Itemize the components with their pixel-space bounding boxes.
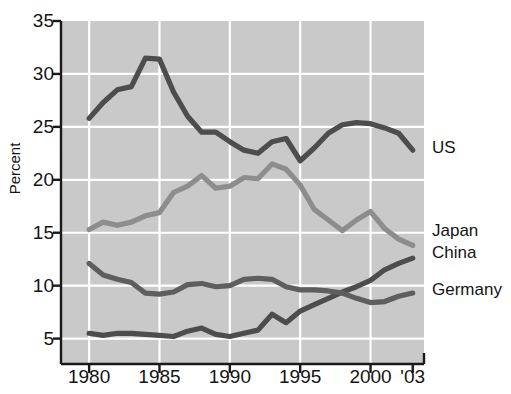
series-label-japan: Japan bbox=[432, 222, 478, 240]
x-tick-label: '03 bbox=[400, 366, 425, 388]
chart-figure: Percent 5101520253035 198019851990199520… bbox=[0, 0, 511, 394]
x-tick-label: 1995 bbox=[279, 366, 321, 388]
x-tick-label: 1990 bbox=[209, 366, 251, 388]
series-label-us: US bbox=[432, 139, 456, 157]
plot-canvas bbox=[0, 0, 511, 394]
series-label-germany: Germany bbox=[432, 281, 502, 299]
x-tick-label: 2000 bbox=[349, 366, 391, 388]
x-tick-label: 1980 bbox=[68, 366, 110, 388]
series-label-china: China bbox=[432, 244, 476, 262]
x-tick-label: 1985 bbox=[138, 366, 180, 388]
